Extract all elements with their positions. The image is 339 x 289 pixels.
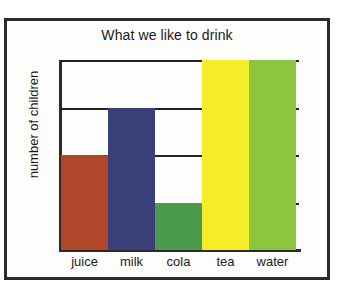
bar-cola[interactable] (155, 60, 202, 250)
x-label-milk: milk (108, 254, 155, 269)
bar-series (61, 60, 299, 250)
bar-water[interactable] (249, 60, 296, 250)
x-label-juice: juice (61, 254, 108, 269)
bar-fill-juice (61, 155, 108, 250)
x-label-cola: cola (155, 254, 202, 269)
bar-tea[interactable] (202, 60, 249, 250)
x-label-tea: tea (202, 254, 249, 269)
y-axis-label: number of children (26, 45, 41, 205)
x-axis-tick-labels: juicemilkcolateawater (61, 254, 301, 276)
bar-fill-cola (155, 203, 202, 251)
bar-fill-milk (108, 108, 155, 251)
bar-fill-tea (202, 60, 249, 250)
bar-juice[interactable] (61, 60, 108, 250)
bar-fill-water (249, 60, 296, 250)
x-label-water: water (249, 254, 296, 269)
chart-frame: What we like to drink number of children… (4, 18, 330, 280)
plot-area (61, 60, 299, 250)
bar-milk[interactable] (108, 60, 155, 250)
chart-title: What we like to drink (7, 27, 327, 43)
